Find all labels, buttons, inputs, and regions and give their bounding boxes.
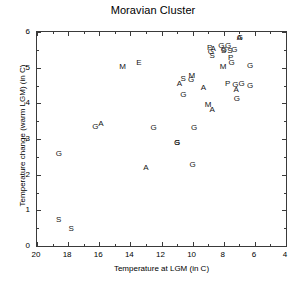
y-tick-major — [37, 210, 41, 211]
plot-area: SSGGAMEAGGSASMGGGGAMAPAGSGGSGSPGGAGMPGAG… — [36, 31, 287, 247]
y-tick-minor — [37, 228, 39, 229]
data-point-marker: S — [69, 225, 74, 233]
x-tick-label: 4 — [283, 250, 287, 259]
data-point-marker: P — [225, 80, 230, 88]
x-tick-label: 16 — [94, 250, 103, 259]
y-tick-label: 3 — [6, 134, 30, 143]
y-tick-major-right — [282, 210, 286, 211]
y-tick-label: 0 — [6, 241, 30, 250]
data-point-marker: G — [180, 91, 186, 99]
data-point-marker: M — [220, 63, 227, 71]
x-tick-minor — [115, 244, 116, 246]
data-point-marker: G — [247, 62, 253, 70]
x-tick-major-top — [68, 32, 69, 36]
data-point-marker: G — [234, 95, 240, 103]
x-tick-major-top — [130, 32, 131, 36]
y-tick-label: 5 — [6, 62, 30, 71]
y-tick-minor — [37, 86, 39, 87]
data-point-marker: G — [56, 150, 62, 158]
data-point-marker: S — [181, 75, 186, 83]
x-tick-major-top — [224, 32, 225, 36]
data-point-marker: G — [231, 46, 237, 54]
y-tick-minor-right — [284, 193, 286, 194]
x-tick-label: 20 — [32, 250, 41, 259]
data-point-marker: G — [191, 124, 197, 132]
y-tick-minor-right — [284, 121, 286, 122]
data-point-marker: A — [209, 106, 214, 114]
y-tick-major — [37, 175, 41, 176]
x-tick-major — [193, 242, 194, 246]
data-point-marker: G — [188, 76, 194, 84]
data-point-marker: G — [239, 80, 245, 88]
x-tick-label: 12 — [156, 250, 165, 259]
scatter-chart-figure: Moravian Cluster SSGGAMEAGGSASMGGGGAMAPA… — [0, 0, 306, 288]
x-tick-minor-top — [84, 32, 85, 34]
y-tick-major — [37, 32, 41, 33]
x-tick-label: 6 — [252, 250, 256, 259]
y-tick-major — [37, 246, 41, 247]
y-tick-major-right — [282, 139, 286, 140]
y-tick-major — [37, 139, 41, 140]
x-tick-minor-top — [270, 32, 271, 34]
y-tick-major-right — [282, 246, 286, 247]
y-tick-minor-right — [284, 86, 286, 87]
y-tick-major-right — [282, 175, 286, 176]
x-tick-major — [99, 242, 100, 246]
data-point-marker: G — [237, 34, 243, 42]
y-tick-label: 2 — [6, 169, 30, 178]
x-tick-minor — [84, 244, 85, 246]
y-tick-minor-right — [284, 157, 286, 158]
x-tick-major-top — [162, 32, 163, 36]
y-tick-minor — [37, 193, 39, 194]
x-tick-minor-top — [208, 32, 209, 34]
data-point-marker: G — [190, 161, 196, 169]
y-tick-major — [37, 68, 41, 69]
x-tick-minor — [177, 244, 178, 246]
y-tick-label: 6 — [6, 27, 30, 36]
x-tick-major-top — [286, 32, 287, 36]
x-tick-label: 14 — [125, 250, 134, 259]
x-tick-major — [162, 242, 163, 246]
data-point-marker: S — [174, 139, 179, 147]
chart-title: Moravian Cluster — [0, 4, 306, 16]
data-point-marker: S — [209, 52, 214, 60]
x-tick-major — [130, 242, 131, 246]
y-tick-minor — [37, 50, 39, 51]
y-tick-major-right — [282, 103, 286, 104]
x-tick-minor-top — [53, 32, 54, 34]
x-tick-major — [255, 242, 256, 246]
x-tick-label: 18 — [63, 250, 72, 259]
x-tick-major-top — [99, 32, 100, 36]
y-tick-label: 4 — [6, 98, 30, 107]
data-point-marker: G — [151, 124, 157, 132]
data-point-marker: S — [56, 216, 61, 224]
x-tick-minor — [208, 244, 209, 246]
x-tick-major-top — [193, 32, 194, 36]
y-tick-minor — [37, 121, 39, 122]
x-tick-label: 8 — [221, 250, 225, 259]
y-tick-major — [37, 103, 41, 104]
data-point-marker: A — [98, 120, 103, 128]
y-tick-label: 1 — [6, 205, 30, 214]
x-tick-minor — [53, 244, 54, 246]
x-tick-label: 10 — [187, 250, 196, 259]
y-tick-minor-right — [284, 228, 286, 229]
x-tick-minor-top — [146, 32, 147, 34]
y-tick-major-right — [282, 68, 286, 69]
x-axis-label: Temperature at LGM (in C) — [36, 264, 287, 273]
y-tick-minor — [37, 157, 39, 158]
x-tick-major — [68, 242, 69, 246]
x-tick-major — [224, 242, 225, 246]
x-tick-minor — [146, 244, 147, 246]
y-tick-major-right — [282, 32, 286, 33]
x-tick-minor — [270, 244, 271, 246]
x-tick-minor-top — [115, 32, 116, 34]
x-tick-major-top — [255, 32, 256, 36]
x-tick-minor-top — [177, 32, 178, 34]
data-point-marker: A — [143, 164, 148, 172]
x-tick-minor — [239, 244, 240, 246]
y-tick-minor-right — [284, 50, 286, 51]
data-point-marker: E — [136, 59, 141, 67]
data-point-marker: A — [201, 84, 206, 92]
x-tick-major — [286, 242, 287, 246]
